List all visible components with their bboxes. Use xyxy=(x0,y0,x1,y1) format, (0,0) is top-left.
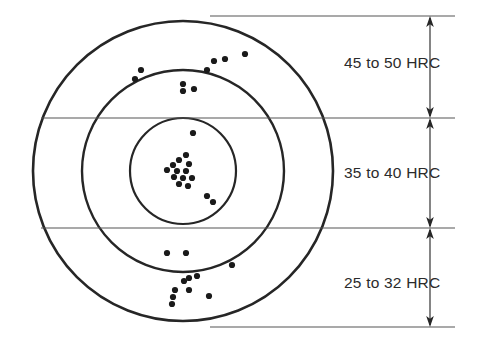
data-point xyxy=(172,287,178,293)
data-point xyxy=(169,301,175,307)
scatter-series-middle-ring xyxy=(164,130,216,205)
data-point xyxy=(170,162,176,168)
data-point xyxy=(211,58,217,64)
data-point xyxy=(204,67,210,73)
data-point xyxy=(183,168,189,174)
scatter-series-outer-ring xyxy=(132,51,248,94)
data-point xyxy=(138,67,144,73)
zone-label-inner: 25 to 32 HRC xyxy=(344,274,440,291)
data-point xyxy=(180,88,186,94)
data-point xyxy=(194,273,200,279)
data-point xyxy=(191,86,197,92)
data-point xyxy=(183,250,189,256)
data-point xyxy=(183,152,189,158)
data-point xyxy=(185,183,191,189)
data-point xyxy=(180,81,186,87)
data-point xyxy=(242,51,248,57)
data-point xyxy=(222,56,228,62)
data-point xyxy=(171,174,177,180)
data-point xyxy=(190,130,196,136)
data-point xyxy=(186,287,192,293)
data-point xyxy=(176,181,182,187)
zone-label-middle: 35 to 40 HRC xyxy=(344,164,440,181)
data-point xyxy=(132,76,138,82)
target-diagram-canvas: 45 to 50 HRC 35 to 40 HRC 25 to 32 HRC xyxy=(0,0,482,353)
scatter-series-inner-ring xyxy=(164,250,235,307)
data-point xyxy=(186,161,192,167)
data-point xyxy=(181,278,187,284)
data-point xyxy=(206,293,212,299)
data-point xyxy=(170,294,176,300)
data-point xyxy=(164,167,170,173)
zone-labels-group: 45 to 50 HRC 35 to 40 HRC 25 to 32 HRC xyxy=(344,54,440,291)
data-point xyxy=(176,157,182,163)
scatter-points-group xyxy=(132,51,248,307)
data-point xyxy=(164,250,170,256)
data-point xyxy=(180,175,186,181)
data-point xyxy=(189,175,195,181)
zone-label-outer: 45 to 50 HRC xyxy=(344,54,440,71)
hardness-target-figure: 45 to 50 HRC 35 to 40 HRC 25 to 32 HRC xyxy=(0,0,482,353)
data-point xyxy=(229,262,235,268)
data-point xyxy=(174,168,180,174)
data-point xyxy=(210,199,216,205)
data-point xyxy=(204,193,210,199)
